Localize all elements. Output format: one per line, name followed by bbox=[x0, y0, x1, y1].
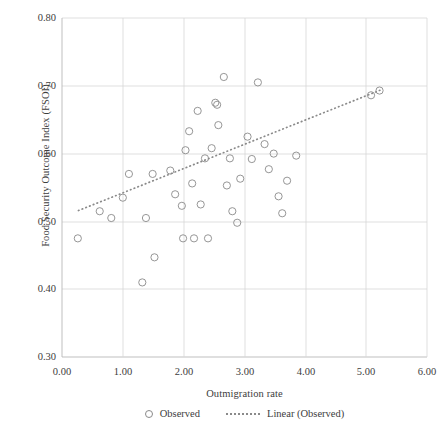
scatter-chart: Food Security Outcome Index (FSOI) 0.80 … bbox=[0, 0, 447, 431]
x-tick-label: 5.00 bbox=[336, 366, 396, 377]
data-point bbox=[215, 122, 222, 129]
data-point bbox=[142, 214, 149, 221]
data-point bbox=[226, 155, 233, 162]
data-point bbox=[204, 235, 211, 242]
data-point bbox=[186, 128, 193, 135]
data-point bbox=[149, 170, 156, 177]
data-point bbox=[189, 180, 196, 187]
data-point bbox=[172, 191, 179, 198]
chart-legend: Observed Linear (Observed) bbox=[62, 408, 427, 419]
data-point bbox=[190, 235, 197, 242]
data-point bbox=[125, 170, 132, 177]
data-point bbox=[254, 79, 261, 86]
x-tick-label: 4.00 bbox=[276, 366, 336, 377]
data-point bbox=[261, 141, 268, 148]
data-point bbox=[167, 167, 174, 174]
data-point bbox=[293, 152, 300, 159]
data-point bbox=[182, 147, 189, 154]
data-points bbox=[74, 73, 383, 286]
data-point bbox=[74, 235, 81, 242]
data-point bbox=[108, 214, 115, 221]
legend-item-linear: Linear (Observed) bbox=[226, 408, 344, 419]
data-point bbox=[197, 201, 204, 208]
data-point bbox=[212, 99, 219, 106]
data-point bbox=[151, 254, 158, 261]
legend-label-observed: Observed bbox=[160, 408, 200, 419]
grid-lines bbox=[62, 18, 427, 357]
x-tick-label: 0.00 bbox=[32, 366, 92, 377]
dotted-line-marker-icon bbox=[226, 413, 260, 415]
x-tick-label: 2.00 bbox=[154, 366, 214, 377]
x-axis-title: Outmigration rate bbox=[62, 388, 427, 399]
trend-line-segment bbox=[78, 89, 382, 210]
data-point bbox=[283, 177, 290, 184]
data-point bbox=[139, 279, 146, 286]
data-point bbox=[237, 175, 244, 182]
data-point bbox=[96, 208, 103, 215]
data-point bbox=[279, 210, 286, 217]
legend-item-observed: Observed bbox=[145, 408, 200, 419]
data-point bbox=[265, 166, 272, 173]
data-point bbox=[223, 182, 230, 189]
data-point bbox=[229, 208, 236, 215]
data-point bbox=[275, 193, 282, 200]
open-circle-marker-icon bbox=[145, 410, 153, 418]
data-point bbox=[194, 107, 201, 114]
data-point bbox=[208, 145, 215, 152]
x-tick-label: 1.00 bbox=[93, 366, 153, 377]
data-point bbox=[214, 101, 221, 108]
legend-label-linear: Linear (Observed) bbox=[267, 408, 344, 419]
data-point bbox=[234, 219, 241, 226]
data-point bbox=[220, 73, 227, 80]
data-point bbox=[179, 235, 186, 242]
trend-line bbox=[78, 89, 382, 210]
x-tick-label: 6.00 bbox=[397, 366, 447, 377]
x-tick-label: 3.00 bbox=[215, 366, 275, 377]
data-point bbox=[248, 155, 255, 162]
